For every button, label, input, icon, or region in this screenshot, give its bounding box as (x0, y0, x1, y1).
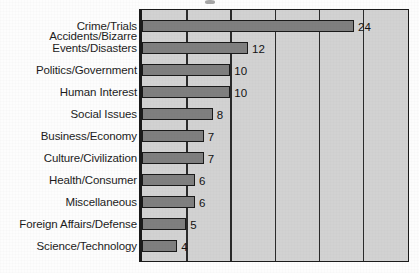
category-label: Accidents/Bizarre Events/Disasters (0, 30, 137, 54)
category-label: Health/Consumer (0, 174, 137, 186)
bar-value-label: 6 (199, 175, 205, 187)
bar (142, 196, 195, 208)
scan-artifact (205, 0, 215, 4)
category-label: Social Issues (0, 108, 137, 120)
bar (142, 20, 354, 32)
value-axis-line (139, 9, 142, 262)
category-label: Politics/Government (0, 64, 137, 76)
bar-value-label: 7 (208, 131, 214, 143)
bar-value-label: 6 (199, 197, 205, 209)
plot-area: 241210108776654 (141, 9, 409, 262)
bar (142, 218, 186, 230)
bar-value-label: 10 (234, 65, 247, 77)
bar (142, 42, 248, 54)
bar (142, 86, 230, 98)
gridline-25 (363, 10, 365, 261)
category-label: Culture/Civilization (0, 152, 137, 164)
bar-value-label: 12 (252, 43, 265, 55)
bar-value-label: 4 (181, 241, 187, 253)
gridline-20 (319, 10, 321, 261)
bar (142, 130, 204, 142)
category-axis-labels: Crime/TrialsAccidents/Bizarre Events/Dis… (0, 9, 137, 262)
bar-value-label: 24 (358, 21, 371, 33)
category-label: Miscellaneous (0, 196, 137, 208)
bar-value-label: 10 (234, 87, 247, 99)
category-label: Business/Economy (0, 130, 137, 142)
category-label: Foreign Affairs/Defense (0, 218, 137, 230)
category-label: Science/Technology (0, 240, 137, 252)
bar (142, 108, 213, 120)
bar-value-label: 7 (208, 153, 214, 165)
gridline-15 (275, 10, 277, 261)
bar (142, 64, 230, 76)
bar-value-label: 5 (190, 219, 196, 231)
category-label: Human Interest (0, 86, 137, 98)
bar (142, 152, 204, 164)
bar-value-label: 8 (217, 109, 223, 121)
bar (142, 240, 177, 252)
chart-screenshot: Crime/TrialsAccidents/Bizarre Events/Dis… (0, 0, 419, 273)
bar (142, 174, 195, 186)
